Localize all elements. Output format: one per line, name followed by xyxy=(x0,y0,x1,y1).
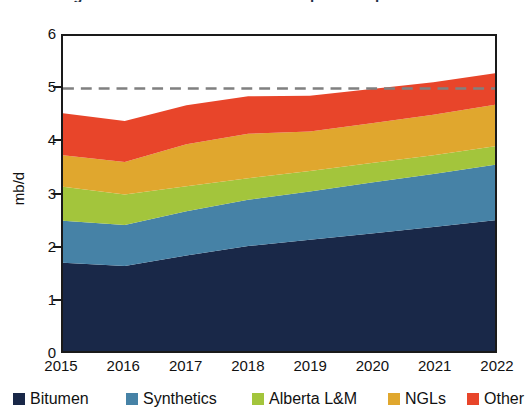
x-tick-label: 2022 xyxy=(467,357,527,374)
legend-item-label: NGLs xyxy=(405,390,446,408)
plot-area xyxy=(61,34,497,353)
legend-item[interactable]: Bitumen xyxy=(13,388,89,410)
stacked-area-svg xyxy=(63,36,495,351)
legend-item-label: Bitumen xyxy=(30,390,89,408)
y-tick-label: 6 xyxy=(34,29,56,39)
chart-figure: Figure 1: Canadian crude oil and equival… xyxy=(0,0,528,419)
x-tick-label: 2019 xyxy=(280,357,340,374)
legend-swatch-ngls xyxy=(388,393,400,405)
legend-swatch-bitumen xyxy=(13,393,25,405)
y-tick-mark xyxy=(53,86,62,88)
legend-item-label: Alberta L&M xyxy=(269,390,357,408)
chart-title: Figure 1: Canadian crude oil and equival… xyxy=(60,0,520,2)
y-tick-mark xyxy=(53,193,62,195)
legend-item[interactable]: Synthetics xyxy=(126,388,217,410)
x-tick-label: 2020 xyxy=(342,357,402,374)
y-tick-mark xyxy=(53,299,62,301)
y-tick-mark xyxy=(53,246,62,248)
chart-legend: BitumenSyntheticsAlberta L&MNGLsOther xyxy=(0,388,528,412)
x-tick-label: 2021 xyxy=(405,357,465,374)
legend-swatch-other xyxy=(467,393,479,405)
x-tick-label: 2018 xyxy=(218,357,278,374)
x-tick-label: 2017 xyxy=(156,357,216,374)
x-tick-label: 2015 xyxy=(31,357,91,374)
legend-item[interactable]: NGLs xyxy=(388,388,446,410)
legend-item-label: Other xyxy=(484,390,524,408)
legend-item-label: Synthetics xyxy=(143,390,217,408)
legend-item[interactable]: Other xyxy=(467,388,524,410)
legend-swatch-alberta-lm xyxy=(252,393,264,405)
legend-item[interactable]: Alberta L&M xyxy=(252,388,357,410)
legend-swatch-synthetics xyxy=(126,393,138,405)
y-tick-mark xyxy=(53,139,62,141)
x-tick-label: 2016 xyxy=(93,357,153,374)
